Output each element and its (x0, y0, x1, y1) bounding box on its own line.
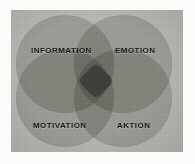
venn-label-information: Information (31, 46, 92, 55)
venn-label-aktion: Aktion (117, 121, 150, 130)
venn-circle-aktion[interactable] (75, 50, 171, 146)
venn-diagram-canvas: Information Emotion Motivation Aktion (11, 10, 183, 152)
figure-frame: Information Emotion Motivation Aktion (0, 0, 195, 164)
venn-label-emotion: Emotion (115, 46, 155, 55)
venn-label-motivation: Motivation (33, 121, 87, 130)
